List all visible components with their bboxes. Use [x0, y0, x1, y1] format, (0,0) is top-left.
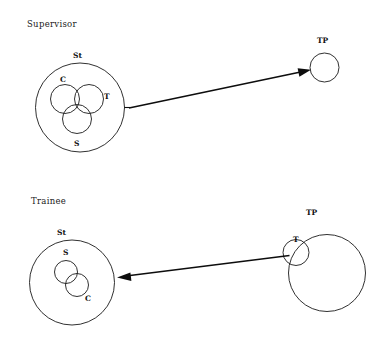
supervisor-to-tp-arrow-head [298, 68, 311, 77]
supervisor-st-outer-circle [36, 63, 125, 152]
trainee-tp-circle [289, 235, 366, 312]
trainee-tp-label: TP [306, 208, 317, 217]
supervisor-to-tp-arrow-line [129, 72, 303, 109]
trainee-s-circle [55, 261, 78, 284]
supervisor-t-circle [75, 85, 104, 114]
trainee-panel-title: Trainee [31, 196, 66, 206]
supervisor-s-circle [63, 105, 92, 134]
supervisor-tp-label: TP [317, 36, 328, 45]
supervisor-t-label: T [104, 92, 110, 101]
supervisor-tp-circle [310, 53, 339, 82]
diagram-canvas: Supervisor St C T S TP Trainee [0, 0, 392, 347]
trainee-s-label: S [63, 248, 68, 257]
trainee-t-label: T [293, 235, 299, 244]
supervisor-st-label: St [73, 51, 82, 60]
supervisor-c-circle [51, 85, 80, 114]
trainee-tp-to-st-arrow-line [126, 256, 290, 277]
trainee-c-label: C [85, 294, 91, 303]
diagram-vector-layer [0, 0, 392, 347]
trainee-st-label: St [57, 228, 66, 237]
trainee-tp-to-st-arrow-head [117, 272, 131, 281]
trainee-st-outer-circle [30, 240, 115, 325]
supervisor-s-label: S [74, 139, 79, 148]
supervisor-c-label: C [60, 75, 66, 84]
